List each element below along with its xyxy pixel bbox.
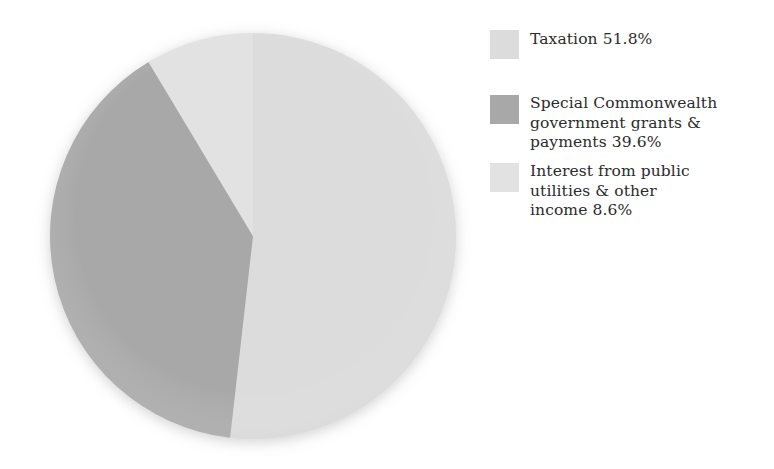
legend-label-special-commonwealth-grants: Special Commonwealth government grants &… [530, 94, 717, 153]
legend-label-taxation: Taxation 51.8% [530, 30, 652, 50]
legend-label-interest-public-utilities: Interest from public utilities & other i… [530, 162, 690, 221]
pie-chart-figure: Taxation 51.8% Special Commonwealth gove… [0, 0, 774, 469]
legend-swatch-special-commonwealth-grants [490, 95, 519, 124]
pie-chart-svg [0, 0, 500, 469]
pie-chart-plot-area [0, 0, 500, 469]
legend-swatch-taxation [490, 30, 519, 59]
legend-swatch-interest-public-utilities [490, 163, 519, 192]
pie-paper-tint [50, 33, 456, 439]
